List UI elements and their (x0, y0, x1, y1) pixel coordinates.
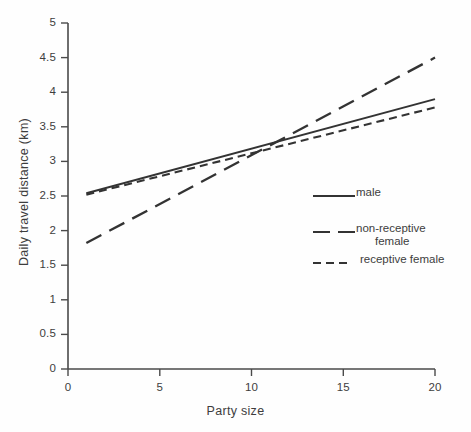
legend-swatch-short-dash-icon (313, 257, 355, 269)
y-tick-label: 5 (22, 16, 56, 28)
legend-swatch-solid-icon (313, 190, 355, 202)
y-tick-label: 1 (22, 293, 56, 305)
legend-item-male: male (313, 186, 463, 202)
legend-label-line1: non-receptive (356, 222, 426, 234)
chart-legend: male non-receptive female receptive fema… (313, 186, 463, 278)
legend-label-line2: female (356, 235, 410, 248)
y-tick-label: 4.5 (22, 51, 56, 63)
y-axis-title: Daily travel distance (km) (17, 92, 31, 292)
x-axis-ticks (68, 369, 435, 376)
x-tick-label: 15 (323, 381, 363, 393)
legend-item-receptive-female: receptive female (313, 253, 463, 269)
x-tick-label: 0 (48, 381, 88, 393)
legend-item-non-receptive-female: non-receptive female (313, 222, 463, 247)
x-tick-label: 10 (232, 381, 272, 393)
series-line-male (86, 99, 435, 193)
x-tick-label: 20 (415, 381, 455, 393)
legend-label-receptive-female: receptive female (355, 253, 444, 266)
legend-swatch-long-dash-icon (313, 226, 355, 238)
legend-label-non-receptive-female: non-receptive female (355, 222, 426, 247)
x-axis-title: Party size (0, 404, 471, 418)
y-tick-label: 0.5 (22, 327, 56, 339)
y-tick-label: 0 (22, 362, 56, 374)
y-axis-ticks (61, 23, 68, 369)
x-tick-label: 5 (140, 381, 180, 393)
chart-figure: 5 4.5 4 3.5 3 2.5 2 1.5 1 0.5 0 0 5 10 1… (0, 0, 471, 432)
legend-label-male: male (355, 186, 381, 199)
